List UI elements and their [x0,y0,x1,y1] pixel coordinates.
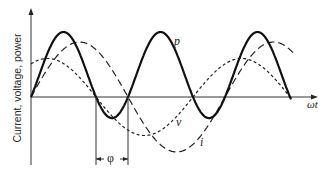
y-axis-label: Current, voltage, power [11,23,23,153]
curve-label-i: i [200,135,203,150]
axes [29,8,319,165]
power-curve-p [31,32,291,118]
arrowhead-left-icon [96,157,101,161]
x-axis-label: ωt [307,98,318,110]
power-waveform-diagram [0,0,331,173]
phase-label: φ [107,151,114,166]
arrowhead-right-icon [123,157,128,161]
y-axis-arrow-icon [29,8,34,15]
curve-label-p: p [174,34,180,49]
curve-label-v: v [176,115,181,130]
